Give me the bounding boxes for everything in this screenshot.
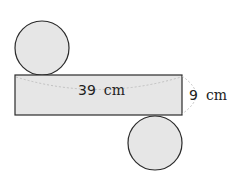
length-unit: cm	[104, 82, 125, 98]
length-value: 39	[78, 82, 96, 98]
height-value: 9	[189, 87, 198, 103]
cylinder-net-diagram: 39 cm 9 cm	[0, 0, 232, 188]
height-label: 9 cm	[189, 86, 227, 103]
top-circle	[15, 21, 69, 75]
height-unit: cm	[206, 87, 227, 103]
bottom-circle	[128, 116, 182, 170]
